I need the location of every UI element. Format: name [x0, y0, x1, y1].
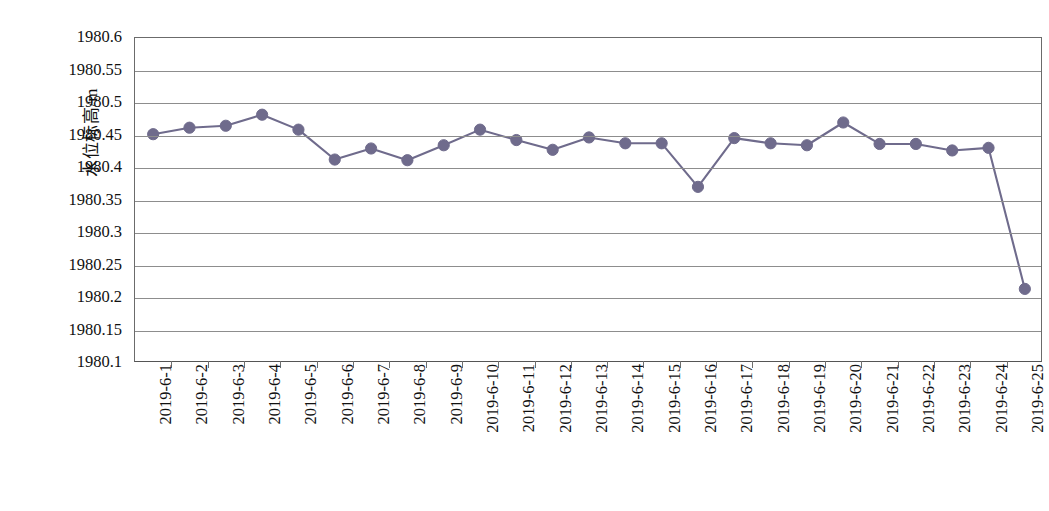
data-point-marker[interactable]	[692, 181, 703, 192]
x-tick-label: 2019-6-20	[848, 364, 865, 433]
y-tick-label: 1980.4	[77, 159, 122, 176]
x-tick-label: 2019-6-7	[376, 364, 393, 425]
gridline	[135, 168, 1041, 169]
gridline	[135, 136, 1041, 137]
y-tick-label: 1980.45	[68, 126, 122, 143]
x-tick-label: 2019-6-21	[885, 364, 902, 433]
data-point-marker[interactable]	[184, 122, 195, 133]
data-point-marker[interactable]	[947, 145, 958, 156]
gridline	[135, 103, 1041, 104]
x-tick-label: 2019-6-14	[630, 364, 647, 433]
x-tick-label: 2019-6-18	[776, 364, 793, 433]
y-tick-label: 1980.55	[68, 61, 122, 78]
y-tick-label: 1980.5	[77, 94, 122, 111]
y-tick-label: 1980.2	[77, 289, 122, 306]
y-tick-label: 1980.15	[68, 321, 122, 338]
x-tick-label: 2019-6-22	[921, 364, 938, 433]
gridline	[135, 266, 1041, 267]
y-axis-tick-labels: 1980.61980.551980.51980.451980.41980.351…	[0, 0, 128, 511]
data-point-marker[interactable]	[474, 124, 485, 135]
data-point-marker[interactable]	[438, 140, 449, 151]
data-point-marker[interactable]	[293, 124, 304, 135]
x-tick-label: 2019-6-13	[594, 364, 611, 433]
x-tick-label: 2019-6-2	[194, 364, 211, 425]
x-tick-label: 2019-6-25	[1030, 364, 1047, 433]
data-point-marker[interactable]	[402, 155, 413, 166]
y-tick-label: 1980.1	[77, 354, 122, 371]
data-point-marker[interactable]	[329, 154, 340, 165]
x-tick-label: 2019-6-24	[994, 364, 1011, 433]
data-point-marker[interactable]	[1019, 283, 1030, 294]
x-tick-label: 2019-6-19	[812, 364, 829, 433]
x-tick-label: 2019-6-8	[412, 364, 429, 425]
data-point-marker[interactable]	[765, 138, 776, 149]
plot-area	[134, 37, 1042, 362]
x-tick-label: 2019-6-12	[558, 364, 575, 433]
y-tick-label: 1980.25	[68, 256, 122, 273]
x-tick-label: 2019-6-3	[231, 364, 248, 425]
x-tick-label: 2019-6-23	[957, 364, 974, 433]
x-tick-label: 2019-6-5	[303, 364, 320, 425]
data-point-marker[interactable]	[729, 133, 740, 144]
gridline	[135, 233, 1041, 234]
data-point-marker[interactable]	[583, 132, 594, 143]
y-tick-label: 1980.3	[77, 224, 122, 241]
y-tick-label: 1980.35	[68, 191, 122, 208]
x-tick-label: 2019-6-4	[267, 364, 284, 425]
x-tick-label: 2019-6-10	[485, 364, 502, 433]
data-point-marker[interactable]	[874, 138, 885, 149]
gridline	[135, 71, 1041, 72]
x-tick-label: 2019-6-1	[158, 364, 175, 425]
data-point-marker[interactable]	[547, 144, 558, 155]
x-tick-label: 2019-6-6	[340, 364, 357, 425]
data-point-marker[interactable]	[620, 138, 631, 149]
data-point-marker[interactable]	[148, 129, 159, 140]
gridline	[135, 331, 1041, 332]
data-point-marker[interactable]	[801, 140, 812, 151]
y-tick-label: 1980.6	[77, 29, 122, 46]
x-tick-label: 2019-6-16	[703, 364, 720, 433]
data-point-marker[interactable]	[257, 109, 268, 120]
data-point-marker[interactable]	[910, 138, 921, 149]
data-point-marker[interactable]	[365, 143, 376, 154]
water-level-line-chart: 水位标高/m 1980.61980.551980.51980.451980.41…	[0, 0, 1049, 511]
x-tick-label: 2019-6-17	[739, 364, 756, 433]
x-axis-tick-labels: 2019-6-12019-6-22019-6-32019-6-42019-6-5…	[134, 364, 1042, 484]
x-tick-label: 2019-6-9	[449, 364, 466, 425]
data-point-marker[interactable]	[656, 138, 667, 149]
data-point-marker[interactable]	[838, 117, 849, 128]
data-point-marker[interactable]	[220, 120, 231, 131]
gridline	[135, 298, 1041, 299]
x-tick-label: 2019-6-11	[521, 364, 538, 432]
data-point-marker[interactable]	[983, 142, 994, 153]
gridline	[135, 201, 1041, 202]
x-tick-label: 2019-6-15	[667, 364, 684, 433]
